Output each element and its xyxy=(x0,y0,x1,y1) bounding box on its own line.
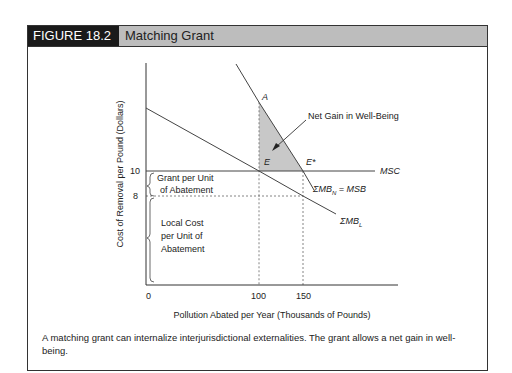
annotation-local-line3: Abatement xyxy=(161,244,205,254)
annotation-grant-line1: Grant per Unit xyxy=(157,173,214,183)
series-label-msc: MSC xyxy=(380,166,401,176)
y-tick-label-8: 8 xyxy=(133,191,138,201)
x-tick-label-0: 0 xyxy=(146,291,151,301)
x-tick-label-150: 150 xyxy=(296,291,311,301)
point-label-e-star: E* xyxy=(306,157,316,167)
local-cost-brace xyxy=(147,198,154,282)
chart: 10 8 0 100 150 Pollution Abated per Year… xyxy=(0,0,512,373)
series-label-sum-mb-l: ΣMBL xyxy=(339,216,362,228)
figure-caption: A matching grant can internalize interju… xyxy=(42,331,477,357)
x-axis-title: Pollution Abated per Year (Thousands of … xyxy=(173,310,370,320)
annotation-local-line1: Local Cost xyxy=(161,218,204,228)
x-tick-label-100: 100 xyxy=(251,291,266,301)
y-axis-title: Cost of Removal per Pound (Dollars) xyxy=(115,100,125,247)
net-gain-arrow xyxy=(276,120,306,147)
annotation-grant-line2: of Abatement xyxy=(160,185,214,195)
annotation-local-line2: per Unit of xyxy=(161,231,203,241)
annotation-net-gain: Net Gain in Well-Being xyxy=(308,111,399,121)
point-label-a: A xyxy=(261,92,268,102)
series-label-sum-mb-n: ΣMBN = MSB xyxy=(312,184,366,196)
point-label-e: E xyxy=(264,157,271,167)
grant-brace xyxy=(147,173,154,196)
y-tick-label-10: 10 xyxy=(130,166,140,176)
